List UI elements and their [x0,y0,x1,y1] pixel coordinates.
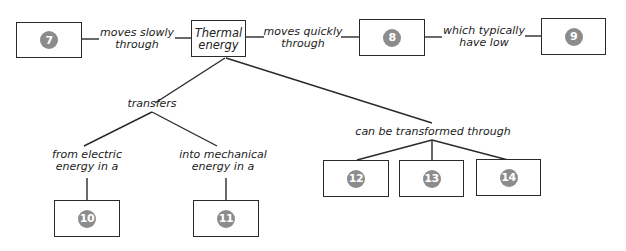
link-label-typically-low: which typically have low [440,25,528,49]
number-badge: 13 [423,170,441,188]
number-badge: 11 [217,210,235,228]
link-label-line: through [261,38,345,50]
number-badge: 9 [565,28,583,46]
link-label-transformed: can be transformed through [350,126,516,138]
number-badge: 12 [347,170,365,188]
link-label-from-electric: from electric energy in a [42,149,132,173]
number-badge: 8 [383,29,401,47]
number-badge: 7 [40,31,58,49]
blank-box-9: 9 [541,18,606,55]
link-label-into-mechanical: into mechanical energy in a [173,149,273,173]
link-label-line: have low [440,37,528,49]
concept-map: 7 moves slowly through Thermal energy mo… [0,0,626,251]
link-label-line: through [96,39,178,51]
link-label-moves-slowly: moves slowly through [96,27,178,51]
blank-box-7: 7 [16,22,82,58]
thermal-energy-box: Thermal energy [191,20,246,57]
blank-box-12: 12 [323,160,389,197]
concept-line: Thermal [195,27,243,39]
link-label-transfers: transfers [122,98,182,110]
number-badge: 10 [78,210,96,228]
number-badge: 14 [500,169,518,187]
concept-line: energy [195,39,243,51]
link-label-line: energy in a [42,161,132,173]
blank-box-13: 13 [399,160,464,197]
link-label-moves-quickly: moves quickly through [261,26,345,50]
blank-box-14: 14 [476,159,541,196]
blank-box-11: 11 [193,200,259,237]
blank-box-10: 10 [54,200,120,237]
blank-box-8: 8 [359,19,425,56]
central-concept: Thermal energy [195,27,243,51]
link-label-line: energy in a [173,161,273,173]
